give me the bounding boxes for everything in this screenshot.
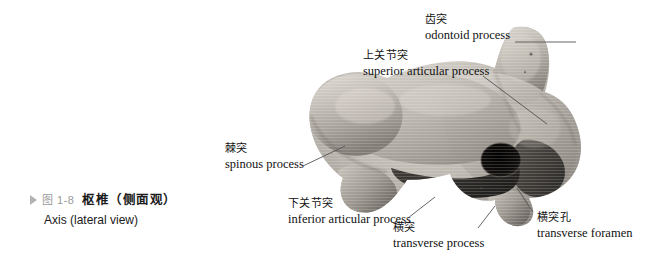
label-inferior-articular-process-cn: 下关节突 (288, 198, 411, 211)
figure-caption: 图 1-8 枢椎（侧面观） Axis (lateral view) (30, 194, 220, 227)
label-transverse-foramen-en: transverse foramen (537, 226, 632, 240)
label-spinous-process-en: spinous process (225, 157, 304, 171)
figure-title-cn: 枢椎（侧面观） (82, 194, 177, 207)
triangle-right-icon (30, 195, 37, 205)
label-transverse-process-cn: 横突 (393, 222, 484, 235)
label-superior-articular-process: 上关节突 superior articular process (363, 50, 489, 78)
caption-primary-line: 图 1-8 枢椎（侧面观） (30, 194, 220, 207)
figure-page: 齿突 odontoid process 上关节突 superior articu… (0, 0, 660, 263)
label-spinous-process-cn: 棘突 (225, 143, 304, 156)
label-superior-articular-process-cn: 上关节突 (363, 50, 489, 63)
label-transverse-foramen: 横突孔 transverse foramen (537, 212, 632, 240)
label-odontoid-process: 齿突 odontoid process (425, 14, 510, 42)
label-spinous-process: 棘突 spinous process (225, 143, 304, 171)
label-odontoid-process-cn: 齿突 (425, 14, 510, 27)
label-odontoid-process-en: odontoid process (425, 28, 510, 42)
figure-number: 图 1-8 (42, 195, 74, 206)
figure-title-en: Axis (lateral view) (44, 213, 220, 227)
label-transverse-foramen-cn: 横突孔 (537, 212, 632, 225)
label-transverse-process-en: transverse process (393, 236, 484, 250)
label-transverse-process: 横突 transverse process (393, 222, 484, 250)
label-superior-articular-process-en: superior articular process (363, 64, 489, 78)
